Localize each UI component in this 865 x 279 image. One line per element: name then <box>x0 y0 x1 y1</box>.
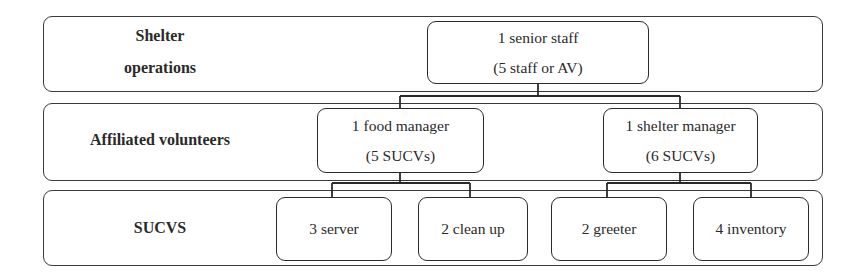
node-label: 3 server <box>309 214 359 244</box>
node-label: 2 clean up <box>441 214 505 244</box>
node-label: 4 inventory <box>715 214 786 244</box>
node-server: 3 server <box>276 197 392 261</box>
node-food-manager: 1 food manager (5 SUCVs) <box>317 108 484 173</box>
node-label: 2 greeter <box>582 214 637 244</box>
node-label: 1 senior staff <box>498 23 579 53</box>
node-sublabel: (5 staff or AV) <box>493 53 582 83</box>
node-sublabel: (6 SUCVs) <box>646 141 715 171</box>
node-label: 1 food manager <box>352 111 449 141</box>
node-greeter: 2 greeter <box>551 197 667 261</box>
node-label: 1 shelter manager <box>625 111 735 141</box>
node-clean-up: 2 clean up <box>418 197 528 261</box>
node-inventory: 4 inventory <box>693 197 809 261</box>
node-shelter-manager: 1 shelter manager (6 SUCVs) <box>603 108 758 173</box>
node-senior-staff: 1 senior staff (5 staff or AV) <box>427 21 649 84</box>
node-sublabel: (5 SUCVs) <box>366 141 435 171</box>
